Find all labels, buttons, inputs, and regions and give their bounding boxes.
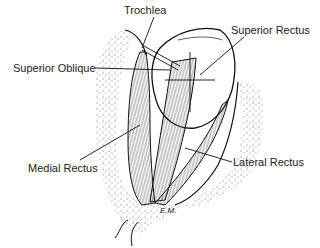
- medial-rectus-muscle: [128, 52, 155, 205]
- label-superior-oblique: Superior Oblique: [13, 63, 96, 74]
- label-superior-rectus: Superior Rectus: [231, 25, 310, 36]
- label-lateral-rectus: Lateral Rectus: [233, 157, 304, 168]
- trochlea-leader: [142, 17, 154, 48]
- label-trochlea: Trochlea: [124, 5, 166, 16]
- label-medial-rectus: Medial Rectus: [28, 163, 98, 174]
- artist-signature: E.M.: [160, 207, 176, 215]
